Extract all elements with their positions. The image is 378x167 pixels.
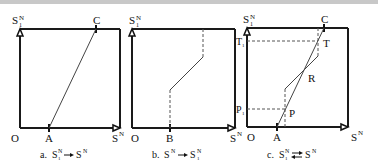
- point-label-P: P: [289, 107, 295, 119]
- svg-text:1: 1: [136, 22, 139, 28]
- diagram-canvas: S N 1 C O A S N a. S N 1 S N: [0, 0, 378, 167]
- svg-text:N: N: [197, 148, 202, 154]
- line-diagonal: [170, 57, 203, 90]
- svg-text:c.: c.: [267, 149, 274, 160]
- svg-text:N: N: [250, 13, 255, 21]
- x-axis-arrow-icon: [228, 125, 235, 131]
- y-axis-arrow-icon: [129, 29, 135, 36]
- panel-b: S N 1 O B S N b. S N S N 1: [129, 14, 242, 161]
- svg-text:N: N: [58, 148, 63, 154]
- svg-text:N: N: [237, 130, 242, 138]
- origin-label: O: [131, 132, 139, 144]
- svg-text:N: N: [358, 129, 363, 137]
- y-axis-label: S: [129, 14, 135, 26]
- svg-text:1: 1: [197, 156, 200, 161]
- y-axis-label: S: [12, 14, 18, 26]
- svg-text:N: N: [285, 148, 290, 154]
- svg-text:1: 1: [58, 156, 61, 161]
- svg-text:S: S: [305, 149, 311, 160]
- origin-label: O: [247, 131, 255, 143]
- point-label-A: A: [273, 131, 281, 143]
- point-label-T: T: [323, 37, 330, 49]
- origin-label: O: [11, 132, 19, 144]
- panel-a: S N 1 C O A S N a. S N 1 S N: [11, 14, 124, 161]
- y-axis-arrow-icon: [17, 29, 23, 36]
- point-label-C: C: [321, 13, 328, 25]
- point-label-A: A: [45, 132, 53, 144]
- x-axis-label: S: [112, 132, 118, 144]
- caption-a: a. S N 1 S N: [40, 148, 88, 161]
- point-label-R: R: [308, 72, 316, 84]
- svg-text:S: S: [190, 149, 196, 160]
- y-axis-label-sup: N: [19, 14, 24, 22]
- x-axis-arrow-icon: [341, 124, 348, 130]
- x-axis-label: S: [351, 131, 357, 143]
- x-axis-label-sup: N: [119, 130, 124, 138]
- y-axis-label-sub: 1: [19, 22, 22, 28]
- point-label-C: C: [93, 14, 100, 26]
- x-axis-label: S: [230, 132, 236, 144]
- svg-text:S: S: [279, 149, 285, 160]
- svg-text:N: N: [312, 148, 317, 154]
- caption-b: b. S N S N 1: [152, 148, 202, 161]
- y-axis-arrow-icon: [244, 28, 250, 35]
- svg-text:S: S: [76, 149, 82, 160]
- point-label-B: B: [166, 132, 173, 144]
- svg-text:b.: b.: [152, 149, 160, 160]
- line-A-C: [277, 28, 324, 127]
- caption-c: c. S N 1 S N: [267, 148, 317, 161]
- panel-c: S N 1 C T 1 T R P 1 P O A S N c. S N 1 S…: [236, 13, 363, 161]
- svg-text:N: N: [171, 148, 176, 154]
- svg-text:N: N: [83, 148, 88, 154]
- svg-text:1: 1: [250, 21, 253, 27]
- y-axis-label: S: [243, 13, 249, 25]
- svg-text:a.: a.: [40, 149, 47, 160]
- svg-text:S: S: [164, 149, 170, 160]
- line-A-C: [49, 29, 96, 128]
- arrows-both-ways-icon: [291, 151, 303, 159]
- svg-text:S: S: [52, 149, 58, 160]
- svg-text:N: N: [136, 14, 141, 22]
- svg-text:1: 1: [242, 43, 245, 48]
- svg-text:1: 1: [285, 156, 288, 161]
- svg-text:1: 1: [242, 111, 245, 116]
